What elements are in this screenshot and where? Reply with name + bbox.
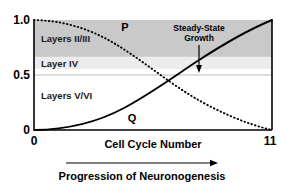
progression-arrow-head <box>210 160 218 166</box>
band-label-layer-iv: Layer IV <box>41 58 79 69</box>
chart-figure: P Q Layers II/III Layer IV Layers V/VI S… <box>0 0 287 185</box>
y-tick-label-mid: 0.5 <box>13 68 30 82</box>
curve-label-p: P <box>121 21 128 33</box>
curve-label-q: Q <box>128 112 137 124</box>
x-axis-title: Cell Cycle Number <box>104 138 202 150</box>
y-tick-label-top: 1.0 <box>13 13 30 27</box>
band-label-layers-ii-iii: Layers II/III <box>41 33 90 44</box>
annotation-line-1: Steady-State <box>173 23 225 33</box>
chart-svg: P Q Layers II/III Layer IV Layers V/VI S… <box>0 0 287 185</box>
figure-caption: Progression of Neuronogenesis <box>59 170 226 182</box>
x-tick-label-left: 0 <box>31 134 38 148</box>
progression-arrow <box>66 160 218 166</box>
annotation-line-2: Growth <box>184 33 214 43</box>
band-label-layers-v-vi: Layers V/VI <box>41 90 92 101</box>
y-tick-label-bottom: 0 <box>23 123 30 137</box>
x-tick-label-right: 11 <box>264 134 277 148</box>
